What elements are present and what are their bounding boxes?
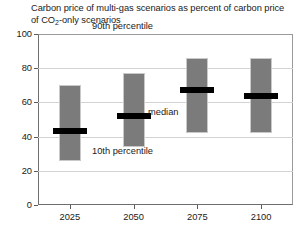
x-axis-tick bbox=[197, 205, 198, 209]
range-bar bbox=[59, 85, 81, 160]
y-axis-tick bbox=[34, 102, 38, 103]
annotation-10th-percentile: 10th percentile bbox=[92, 146, 153, 156]
y-axis-tick bbox=[34, 205, 38, 206]
median-marker bbox=[53, 128, 87, 134]
x-axis-tick bbox=[70, 205, 71, 209]
gridline bbox=[38, 171, 293, 172]
plot-area: 020406080100 2025205020752100 90th perce… bbox=[38, 34, 293, 205]
x-axis-label: 2050 bbox=[123, 212, 144, 222]
annotation-median: median bbox=[148, 107, 179, 117]
range-bar bbox=[186, 58, 208, 133]
y-axis-label: 20 bbox=[22, 166, 32, 176]
y-axis-label: 80 bbox=[22, 63, 32, 73]
y-axis-label: 100 bbox=[16, 29, 32, 39]
y-axis-tick bbox=[34, 137, 38, 138]
median-marker bbox=[244, 93, 278, 99]
y-axis-tick bbox=[34, 68, 38, 69]
x-axis-label: 2075 bbox=[187, 212, 208, 222]
median-marker bbox=[117, 113, 151, 119]
x-axis-label: 2025 bbox=[60, 212, 81, 222]
chart-title: Carbon price of multi-gas scenarios as p… bbox=[31, 3, 293, 26]
y-axis-label: 40 bbox=[22, 132, 32, 142]
chart-container: Carbon price of multi-gas scenarios as p… bbox=[0, 0, 303, 240]
y-axis-label: 0 bbox=[27, 200, 32, 210]
chart-title-subscript: 2 bbox=[55, 19, 59, 26]
annotation-90th-percentile: 90th percentile bbox=[92, 21, 153, 31]
median-marker bbox=[180, 87, 214, 93]
y-axis-tick bbox=[34, 171, 38, 172]
x-axis-tick bbox=[261, 205, 262, 209]
x-axis-tick bbox=[134, 205, 135, 209]
range-bar bbox=[123, 73, 145, 147]
x-axis-label: 2100 bbox=[251, 212, 272, 222]
y-axis-label: 60 bbox=[22, 97, 32, 107]
y-axis-tick bbox=[34, 34, 38, 35]
